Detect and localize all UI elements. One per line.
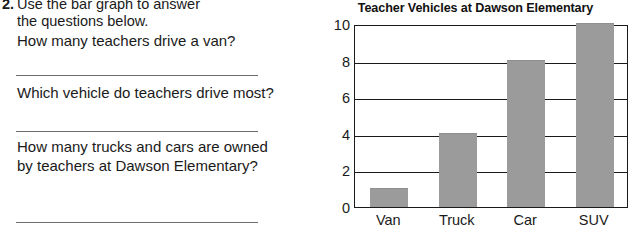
answer-blank-2[interactable] [16, 131, 258, 132]
question-1-text: How many teachers drive a van? [17, 31, 235, 50]
bar-suv [576, 23, 614, 207]
chart-title: Teacher Vehicles at Dawson Elementary [320, 1, 631, 15]
x-tick-label-van: Van [354, 212, 423, 229]
bar-truck [439, 133, 477, 207]
x-tick-label-suv: SUV [560, 212, 629, 229]
worksheet-question-panel: 2. Use the bar graph to answer the quest… [0, 0, 320, 242]
prompt-line-2: the questions below. [17, 13, 148, 30]
y-tick-label-4: 4 [320, 128, 350, 142]
question-3-text: How many trucks and cars are owned by te… [17, 137, 269, 175]
question-2-text: Which vehicle do teachers drive most? [17, 83, 274, 102]
bar-chart: Teacher Vehicles at Dawson Elementary 02… [320, 0, 635, 242]
y-tick-label-6: 6 [320, 91, 350, 105]
y-tick-label-8: 8 [320, 55, 350, 69]
y-axis-tick-labels: 0246810 [320, 25, 350, 208]
answer-blank-3[interactable] [16, 222, 258, 223]
answer-blank-1[interactable] [16, 75, 258, 76]
x-tick-label-car: Car [491, 212, 560, 229]
bar-car [507, 60, 545, 207]
x-tick-label-truck: Truck [423, 212, 492, 229]
prompt-line-1: Use the bar graph to answer [17, 0, 200, 13]
bar-van [370, 188, 408, 207]
y-tick-label-10: 10 [320, 18, 350, 32]
question-number: 2. [2, 0, 14, 12]
y-tick-label-2: 2 [320, 164, 350, 178]
y-tick-label-0: 0 [320, 201, 350, 215]
plot-area [354, 25, 628, 208]
